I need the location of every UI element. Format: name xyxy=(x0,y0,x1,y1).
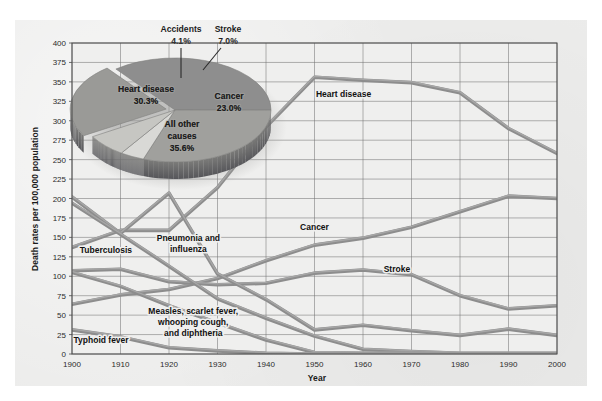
series-label-text: Typhoid fever xyxy=(74,335,130,345)
y-tick-label: 225 xyxy=(53,175,67,184)
pie-slice-side xyxy=(183,161,188,178)
pie-slice-side xyxy=(178,162,183,179)
pie-slice-side xyxy=(148,160,153,178)
pie-slice-side xyxy=(101,143,102,160)
callout-value: 4.1% xyxy=(171,36,191,46)
y-tick-label: 350 xyxy=(53,78,67,87)
pie-slice-side xyxy=(141,159,142,176)
series-label-text: influenza xyxy=(170,244,207,254)
pie-slice-side xyxy=(96,140,97,158)
y-tick-label: 325 xyxy=(53,97,67,106)
pie-slice-side xyxy=(72,120,73,139)
pie-slice-side xyxy=(252,139,255,158)
series-label: TuberculosisTuberculosis xyxy=(80,245,133,255)
pie-slice-side xyxy=(104,145,105,162)
pie-slice-side xyxy=(136,158,137,175)
pie-slice-side xyxy=(122,154,123,171)
pie-slice-side xyxy=(131,156,132,173)
x-tick-label: 1930 xyxy=(209,360,227,369)
series-label: Typhoid feverTyphoid fever xyxy=(74,335,130,345)
pie-slice-side xyxy=(123,154,124,171)
pie-slice-side xyxy=(111,149,112,166)
y-tick-label: 300 xyxy=(53,117,67,126)
pie-slice-side xyxy=(127,155,128,172)
pie-slice-side xyxy=(242,145,246,164)
pie-slice-side xyxy=(238,147,242,166)
pie-slice-side xyxy=(260,131,262,150)
pie-slice-side xyxy=(131,156,132,173)
pie-slice-side xyxy=(103,144,104,161)
pie-slice-side xyxy=(94,138,95,156)
pie-slice-side xyxy=(109,148,110,165)
pie-slice-side xyxy=(208,158,213,176)
x-tick-label: 1960 xyxy=(354,360,372,369)
pie-slice-side xyxy=(134,157,135,174)
pie-slice-side xyxy=(110,148,111,165)
pie-slice-side xyxy=(130,156,131,173)
series-label: CancerCancer xyxy=(300,222,330,232)
pie-slice-side xyxy=(93,137,94,155)
series-label-text: whooping cough, xyxy=(157,317,228,327)
pie-label-text: causes xyxy=(167,131,196,141)
y-tick-label: 400 xyxy=(53,39,67,48)
pie-slice-side xyxy=(266,124,267,144)
pie-slice-side xyxy=(74,124,75,143)
pie-label-text: 35.6% xyxy=(170,143,195,153)
y-tick-label: 175 xyxy=(53,214,67,223)
series-label-text: Tuberculosis xyxy=(80,245,133,255)
pie-slice-side xyxy=(128,155,129,172)
pie-slice-side xyxy=(129,156,130,173)
pie-slice-side xyxy=(118,152,119,169)
pie-slice-side xyxy=(140,158,141,175)
series-label-text: Measles, scarlet fever, xyxy=(148,306,238,316)
callout-value: 7.0% xyxy=(218,36,238,46)
pie-slice-side xyxy=(73,122,74,141)
pie-slice-side xyxy=(124,154,125,171)
pie-slice-side xyxy=(105,146,106,163)
pie-slice-side xyxy=(113,150,114,167)
pie-slice-side xyxy=(127,155,128,172)
y-tick-label: 250 xyxy=(53,156,67,165)
pie-slice-side xyxy=(222,154,226,172)
pie-slice-side xyxy=(130,156,131,173)
pie-slice-side xyxy=(114,150,115,167)
series-label-text: Stroke xyxy=(384,264,411,274)
y-axis-tick-labels: 0255075100125150175200225250275300325350… xyxy=(53,39,72,359)
pie-slice-side xyxy=(132,156,133,173)
pie-slice-side xyxy=(107,147,108,164)
pie-slice-side xyxy=(128,155,129,172)
pie-slice-side xyxy=(246,143,249,162)
pie-slice-side xyxy=(117,152,118,169)
y-tick-label: 125 xyxy=(53,253,67,262)
pie-slice-side xyxy=(230,151,234,170)
pie-slice-side xyxy=(136,157,137,174)
series-label-text: Pneumonia and xyxy=(157,233,220,243)
chart-figure: 0255075100125150175200225250275300325350… xyxy=(0,0,602,401)
pie-slice-side xyxy=(108,147,109,164)
pie-slice-side xyxy=(116,151,117,168)
x-axis-title: Year xyxy=(308,373,327,383)
pie-slice-side xyxy=(135,157,136,174)
pie-label-text: 23.0% xyxy=(217,103,242,113)
pie-slice-side xyxy=(76,126,77,145)
pie-slice-side xyxy=(203,159,208,177)
pie-slice-side xyxy=(106,146,107,163)
x-tick-label: 1970 xyxy=(403,360,421,369)
pie-slice-side xyxy=(77,128,78,147)
pie-slice-side xyxy=(97,140,98,158)
pie-slice-side xyxy=(80,132,82,151)
pie-slice-side xyxy=(117,151,118,168)
pie-slice-side xyxy=(93,137,94,155)
x-tick-label: 1900 xyxy=(63,360,81,369)
pie-slice-side xyxy=(122,153,123,170)
pie-slice-side xyxy=(213,157,218,175)
pie-slice-side xyxy=(95,139,96,157)
pie-slice-side xyxy=(125,155,126,172)
pie-slice-side xyxy=(101,143,102,160)
pie-label-text: All other xyxy=(165,119,201,129)
pie-slice-side xyxy=(258,134,260,153)
y-tick-label: 200 xyxy=(53,195,67,204)
series-label: Heart diseaseHeart disease xyxy=(316,89,372,99)
pie-slice-side xyxy=(139,158,140,175)
pie-slice-side xyxy=(99,142,100,159)
